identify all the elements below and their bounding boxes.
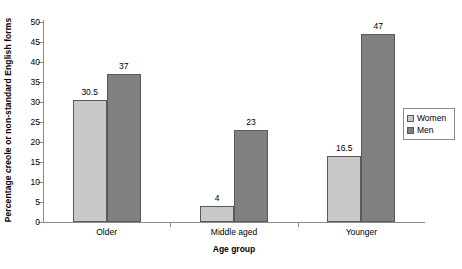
- y-axis-title-label: Percentage creole or non-standard Englis…: [3, 18, 13, 223]
- legend-swatch-women-icon: [407, 115, 414, 122]
- bar-value-label: 37: [97, 62, 151, 71]
- plot-area: 0510152025303540455030.53742316.547: [43, 22, 425, 222]
- chart-legend: Women Men: [403, 108, 455, 140]
- bar-women-older: [73, 100, 107, 222]
- legend-swatch-men-icon: [407, 127, 414, 134]
- y-axis-tick-label: 10: [31, 178, 40, 187]
- y-axis-tick-label: 35: [31, 78, 40, 87]
- bar-women-younger: [327, 156, 361, 222]
- y-axis-tick-label: 20: [31, 138, 40, 147]
- bar-value-label: 23: [224, 118, 278, 127]
- bar-men-middle-aged: [234, 130, 268, 222]
- x-axis-separator-tick: [170, 222, 171, 227]
- bar-chart: Percentage creole or non-standard Englis…: [0, 0, 462, 269]
- legend-label-women: Women: [417, 114, 446, 123]
- bar-men-younger: [361, 34, 395, 222]
- y-axis-tick-label: 15: [31, 158, 40, 167]
- bar-men-older: [107, 74, 141, 222]
- legend-label-men: Men: [417, 126, 434, 135]
- bar-women-middle-aged: [200, 206, 234, 222]
- x-axis-group-label: Younger: [311, 228, 411, 237]
- y-axis-tick-label: 0: [35, 218, 40, 227]
- y-axis-tick-label: 50: [31, 18, 40, 27]
- legend-item-men: Men: [407, 124, 451, 136]
- y-axis-tick-label: 45: [31, 38, 40, 47]
- legend-item-women: Women: [407, 112, 451, 124]
- x-axis-group-label: Older: [57, 228, 157, 237]
- x-axis-separator-tick: [298, 222, 299, 227]
- bar-value-label: 47: [351, 22, 405, 31]
- y-axis-tick-label: 30: [31, 98, 40, 107]
- x-axis-group-label: Middle aged: [184, 228, 284, 237]
- x-axis-title: Age group: [43, 244, 425, 254]
- x-axis-line: [43, 222, 425, 223]
- y-axis-title: Percentage creole or non-standard Englis…: [0, 0, 16, 240]
- y-axis-tick-label: 40: [31, 58, 40, 67]
- y-axis-tick-label: 25: [31, 118, 40, 127]
- y-axis-tick-label: 5: [35, 198, 40, 207]
